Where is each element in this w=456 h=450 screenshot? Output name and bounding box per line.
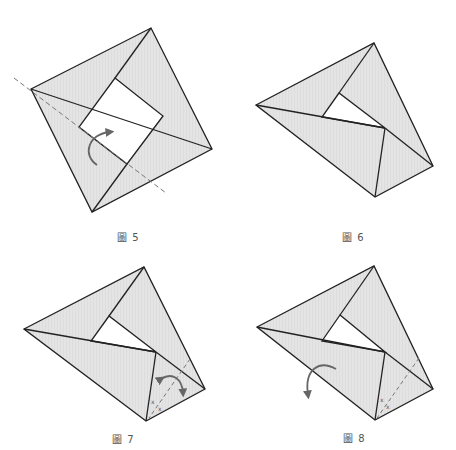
- fig8-mark-x: x: [380, 396, 384, 403]
- figure-8: x x: [257, 266, 433, 420]
- figure-6: [256, 43, 433, 197]
- diagram-canvas: x x x x: [0, 0, 456, 450]
- figure-6-caption: 圖 6: [342, 229, 365, 244]
- fig7-mark-x: x: [151, 398, 155, 405]
- figure-7-caption: 圖 7: [112, 431, 135, 446]
- figure-5-caption: 圖 5: [117, 229, 140, 244]
- fig8-mark-x: x: [386, 403, 390, 410]
- figure-8-caption: 圖 8: [343, 430, 366, 445]
- figure-7: x x: [24, 267, 205, 421]
- fig7-mark-x: x: [158, 405, 162, 412]
- figure-5: [14, 28, 212, 212]
